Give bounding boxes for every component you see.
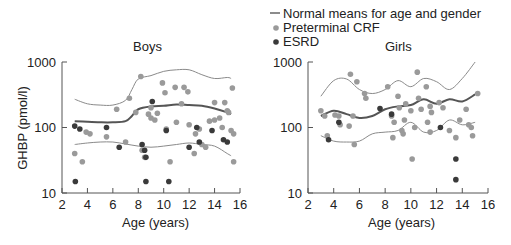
preterminal-point xyxy=(203,144,209,150)
ghbp-chart: 1010010002468101214161010010002468101214… xyxy=(0,0,511,245)
esrd-point xyxy=(326,137,332,143)
preterminal-point xyxy=(351,142,357,148)
preterminal-point xyxy=(436,100,442,106)
esrd-point xyxy=(73,179,79,185)
esrd-point xyxy=(104,125,110,131)
preterminal-point xyxy=(440,105,446,111)
esrd-point xyxy=(116,144,122,150)
x-tick-label: 2 xyxy=(304,197,311,212)
preterminal-point xyxy=(191,151,197,157)
y-tick-label: 100 xyxy=(34,120,56,135)
range-line xyxy=(321,62,475,96)
esrd-point xyxy=(438,125,444,131)
preterminal-point xyxy=(425,120,431,126)
preterminal-point xyxy=(160,80,166,86)
preterminal-point xyxy=(181,85,187,91)
esrd-point xyxy=(194,125,200,131)
preterminal-point xyxy=(416,95,422,101)
preterminal-point xyxy=(336,113,342,119)
preterminal-point xyxy=(470,133,476,139)
x-tick-label: 16 xyxy=(481,197,495,212)
x-tick-label: 16 xyxy=(233,197,247,212)
esrd-point xyxy=(163,128,169,134)
legend-preterminal-dot-icon xyxy=(273,25,279,31)
boys-plot: 101001000246810121416 xyxy=(27,55,247,213)
preterminal-point xyxy=(148,105,154,111)
preterminal-point xyxy=(346,123,352,129)
preterminal-point xyxy=(104,134,110,140)
y-tick-label: 100 xyxy=(280,120,302,135)
esrd-point xyxy=(139,142,145,148)
esrd-point xyxy=(197,139,203,145)
x-tick-label: 4 xyxy=(330,197,337,212)
preterminal-point xyxy=(400,131,406,137)
preterminal-point xyxy=(185,89,191,95)
esrd-point xyxy=(186,144,192,150)
preterminal-point xyxy=(226,110,232,116)
preterminal-point xyxy=(207,118,213,124)
y-tick-label: 10 xyxy=(288,186,302,201)
y-tick-label: 1000 xyxy=(27,55,56,70)
preterminal-point xyxy=(350,113,356,119)
preterminal-point xyxy=(231,131,237,137)
preterminal-point xyxy=(453,135,459,141)
preterminal-point xyxy=(348,71,354,77)
preterminal-point xyxy=(390,135,396,141)
preterminal-point xyxy=(427,129,433,135)
x-tick-label: 10 xyxy=(156,197,170,212)
esrd-point xyxy=(72,123,78,129)
esrd-point xyxy=(77,126,83,132)
preterminal-point xyxy=(409,156,415,162)
preterminal-point xyxy=(403,101,409,107)
x-tick-label: 6 xyxy=(109,197,116,212)
x-tick-label: 8 xyxy=(382,197,389,212)
preterminal-point xyxy=(114,106,120,112)
preterminal-point xyxy=(219,125,225,131)
preterminal-point xyxy=(429,110,435,116)
preterminal-point xyxy=(391,120,397,126)
x-tick-label: 14 xyxy=(207,197,221,212)
x-tick-label: 14 xyxy=(455,197,469,212)
preterminal-point xyxy=(463,106,469,112)
preterminal-point xyxy=(408,108,414,114)
preterminal-point xyxy=(80,159,86,165)
preterminal-point xyxy=(167,159,173,165)
preterminal-point xyxy=(123,139,129,145)
girls-plot: 101001000246810121416 xyxy=(273,55,495,213)
esrd-point xyxy=(143,155,149,161)
esrd-point xyxy=(453,177,459,183)
preterminal-point xyxy=(468,125,474,131)
preterminal-point xyxy=(72,151,78,157)
preterminal-point xyxy=(138,74,144,80)
esrd-point xyxy=(166,179,172,185)
preterminal-point xyxy=(457,117,463,123)
preterminal-point xyxy=(155,110,161,116)
preterminal-point xyxy=(172,85,178,91)
y-tick-label: 10 xyxy=(42,186,56,201)
esrd-point xyxy=(453,156,459,162)
preterminal-point xyxy=(414,69,420,75)
preterminal-point xyxy=(133,110,139,116)
preterminal-point xyxy=(427,104,433,110)
preterminal-point xyxy=(412,125,418,131)
esrd-point xyxy=(143,179,149,185)
preterminal-point xyxy=(212,100,218,106)
x-tick-label: 2 xyxy=(58,197,65,212)
preterminal-point xyxy=(385,84,391,90)
preterminal-point xyxy=(447,128,453,134)
preterminal-point xyxy=(423,84,429,90)
x-tick-label: 10 xyxy=(404,197,418,212)
preterminal-point xyxy=(396,105,402,111)
preterminal-point xyxy=(212,117,218,123)
preterminal-point xyxy=(87,131,93,137)
preterminal-point xyxy=(186,122,192,128)
esrd-point xyxy=(142,147,148,153)
legend-esrd-dot-icon xyxy=(273,39,279,45)
x-tick-label: 4 xyxy=(84,197,91,212)
preterminal-point xyxy=(127,95,133,101)
esrd-point xyxy=(389,111,395,117)
preterminal-point xyxy=(402,117,408,123)
esrd-point xyxy=(224,139,230,145)
preterminal-point xyxy=(354,79,360,85)
esrd-point xyxy=(377,106,383,112)
